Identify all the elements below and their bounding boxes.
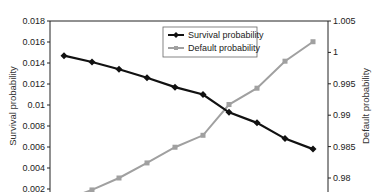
data-point-marker xyxy=(255,86,260,91)
right-tick-label: 0.985 xyxy=(333,142,356,152)
series-default-probability xyxy=(62,39,316,192)
data-point-marker xyxy=(310,146,317,153)
right-tick-label: 1 xyxy=(333,47,338,57)
legend-label-survival: Survival probability xyxy=(188,30,264,40)
left-tick-label: 0.01 xyxy=(27,100,45,110)
left-tick-label: 0.014 xyxy=(22,58,45,68)
data-point-marker xyxy=(61,52,68,59)
left-tick-label: 0.006 xyxy=(22,142,45,152)
right-axis-label: Default probability xyxy=(360,68,371,144)
left-tick-label: 0.004 xyxy=(22,163,45,173)
data-point-marker xyxy=(116,66,123,73)
right-tick-label: 0.98 xyxy=(333,173,351,183)
left-tick-label: 0.002 xyxy=(22,184,45,192)
data-point-marker xyxy=(283,59,288,64)
left-tick-label: 0.016 xyxy=(22,37,45,47)
right-axis-ticks: 1.00510.9950.990.9850.98 xyxy=(328,16,356,183)
data-point-marker xyxy=(117,176,122,181)
data-point-marker xyxy=(201,133,206,138)
dual-axis-line-chart: 0.0180.0160.0140.0120.010.0080.0060.0040… xyxy=(0,0,378,192)
data-point-marker xyxy=(144,74,151,81)
left-tick-label: 0.008 xyxy=(22,121,45,131)
data-point-marker xyxy=(90,187,95,192)
right-tick-label: 0.995 xyxy=(333,79,356,89)
left-tick-label: 0.018 xyxy=(22,16,45,26)
legend: Survival probability Default probability xyxy=(163,27,264,57)
left-axis-ticks: 0.0180.0160.0140.0120.010.0080.0060.0040… xyxy=(22,16,50,192)
square-marker-icon xyxy=(174,46,178,50)
data-point-marker xyxy=(89,58,96,65)
right-tick-label: 1.005 xyxy=(333,16,356,26)
right-tick-label: 0.99 xyxy=(333,110,351,120)
left-tick-label: 0.012 xyxy=(22,79,45,89)
data-point-marker xyxy=(311,39,316,44)
data-point-marker xyxy=(173,145,178,150)
data-point-marker xyxy=(145,160,150,165)
left-axis-label: Survival probability xyxy=(7,66,18,146)
data-point-marker xyxy=(227,102,232,107)
data-point-marker xyxy=(172,84,179,91)
legend-label-default: Default probability xyxy=(188,43,261,53)
